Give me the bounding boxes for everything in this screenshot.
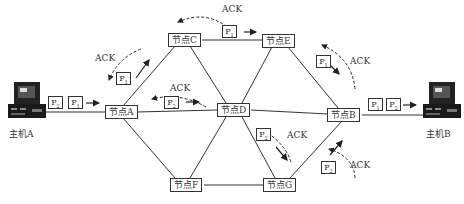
packet-p2: P2	[256, 128, 271, 141]
host-b-label: 主机B	[426, 127, 451, 140]
packet-p1: P1	[68, 96, 83, 109]
packet-p2: P2	[321, 161, 336, 174]
host-b	[423, 82, 461, 120]
node-b: 节点B	[327, 108, 360, 122]
node-d: 节点D	[217, 103, 250, 117]
ack-label: ACK	[350, 160, 370, 170]
node-c: 节点C	[168, 33, 201, 47]
ack-label: ACK	[287, 130, 307, 140]
node-a: 节点A	[105, 105, 138, 119]
computer-icon	[8, 82, 46, 120]
packet-p1: P1	[116, 72, 131, 85]
node-g: 节点G	[263, 178, 296, 192]
node-f: 节点F	[170, 178, 202, 192]
ack-label: ACK	[222, 4, 242, 14]
host-a	[8, 82, 46, 120]
node-e: 节点E	[262, 34, 295, 48]
packet-p2: P2	[164, 96, 179, 109]
ack-label: ACK	[350, 56, 370, 66]
host-a-label: 主机A	[9, 127, 34, 140]
packet-p1: P1	[368, 98, 383, 111]
packet-p2: P2	[48, 96, 63, 109]
packet-p1: P1	[316, 55, 331, 68]
ack-label: ACK	[170, 83, 190, 93]
computer-icon	[423, 82, 461, 120]
packet-p1: P1	[222, 25, 237, 38]
ack-label: ACK	[95, 53, 115, 63]
packet-p2: P2	[386, 98, 401, 111]
